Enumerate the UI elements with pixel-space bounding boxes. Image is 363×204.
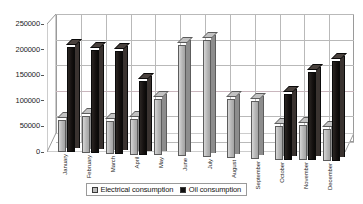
- bar-group: [106, 26, 128, 154]
- bar-group: [154, 27, 176, 155]
- x-axis-tick-label: January: [62, 154, 68, 175]
- x-axis-tick-label: July: [207, 159, 213, 169]
- bar-side-face: [316, 67, 321, 156]
- bar-oil: [139, 81, 147, 154]
- bar-front-face: [227, 99, 235, 158]
- bar-front-face: [332, 61, 340, 161]
- legend-swatch-oil-icon: [180, 187, 186, 193]
- bar-oil: [332, 61, 340, 161]
- x-axis-tick-label: November: [303, 162, 309, 189]
- bar-oil: [115, 51, 123, 153]
- bar-electrical: [58, 120, 66, 152]
- bar-oil: [67, 47, 75, 152]
- y-axis-tick-mark: [41, 126, 44, 127]
- bar-side-face: [147, 76, 152, 150]
- y-axis-tick-mark: [41, 24, 44, 25]
- bar-group: [82, 25, 104, 153]
- chart-legend: Electrical consumption Oil consumption: [86, 183, 247, 196]
- bar-front-face: [106, 121, 114, 153]
- bar-electrical: [203, 40, 211, 157]
- bar-front-face: [130, 119, 138, 155]
- bar-group: [58, 24, 80, 152]
- legend-item-oil: Oil consumption: [180, 185, 241, 194]
- bar-oil: [91, 50, 99, 152]
- bar-front-face: [58, 120, 66, 152]
- bar-front-face: [115, 51, 123, 153]
- bar-front-face: [154, 99, 162, 155]
- bar-group: [178, 28, 200, 156]
- bar-side-face: [340, 56, 345, 157]
- legend-label-oil: Oil consumption: [189, 185, 241, 194]
- bar-front-face: [178, 45, 186, 157]
- bars-layer: [47, 14, 354, 152]
- x-axis-tick-label: April: [134, 157, 140, 169]
- bar-group: [203, 29, 225, 157]
- bar-side-face: [235, 94, 240, 154]
- x-axis-tick-label: October: [279, 162, 285, 183]
- y-axis-tick-label: 50000: [20, 122, 40, 130]
- bar-group: [227, 30, 249, 158]
- y-axis: 050000100000150000200000250000: [0, 0, 44, 160]
- bar-electrical: [251, 101, 259, 159]
- x-axis-tick-label: December: [327, 163, 333, 190]
- bar-side-face: [292, 89, 297, 156]
- y-axis-tick-label: 100000: [16, 97, 40, 105]
- y-axis-tick-label: 0: [36, 148, 40, 156]
- bar-side-face: [123, 46, 128, 149]
- bar-front-face: [203, 40, 211, 157]
- x-axis-tick-label: February: [86, 155, 92, 178]
- bar-front-face: [91, 50, 99, 152]
- bar-front-face: [67, 47, 75, 152]
- bar-oil: [308, 72, 316, 160]
- y-axis-tick-label: 200000: [16, 46, 40, 54]
- bar-front-face: [139, 81, 147, 154]
- legend-label-electrical: Electrical consumption: [101, 185, 174, 194]
- y-axis-tick-mark: [41, 49, 44, 50]
- legend-swatch-electrical-icon: [92, 187, 98, 193]
- bar-side-face: [259, 96, 264, 155]
- bar-oil: [284, 94, 292, 160]
- bar-group: [299, 32, 321, 160]
- bar-front-face: [82, 116, 90, 153]
- bar-electrical: [227, 99, 235, 158]
- bar-group: [323, 33, 345, 161]
- x-axis: JanuaryFebruaryMarchAprilMayJuneJulyAugu…: [47, 152, 354, 182]
- bar-chart: 050000100000150000200000250000 JanuaryFe…: [0, 0, 363, 204]
- y-axis-tick-mark: [41, 75, 44, 76]
- x-axis-tick-label: August: [231, 160, 237, 178]
- y-axis-tick-label: 150000: [16, 71, 40, 79]
- x-axis-tick-label: May: [158, 157, 164, 168]
- bar-front-face: [284, 94, 292, 160]
- bar-electrical: [154, 99, 162, 155]
- bar-side-face: [186, 40, 191, 153]
- bar-electrical: [178, 45, 186, 157]
- bar-electrical: [130, 119, 138, 155]
- y-axis-tick-mark: [41, 152, 44, 153]
- bar-side-face: [162, 94, 167, 151]
- x-axis-tick-label: September: [255, 161, 261, 189]
- bar-side-face: [99, 45, 104, 148]
- bar-electrical: [82, 116, 90, 153]
- bar-group: [275, 32, 297, 160]
- bar-electrical: [106, 121, 114, 153]
- x-axis-tick-label: March: [110, 156, 116, 172]
- legend-item-electrical: Electrical consumption: [92, 185, 173, 194]
- bar-front-face: [251, 101, 259, 159]
- bar-front-face: [308, 72, 316, 160]
- bar-group: [251, 31, 273, 159]
- bar-group: [130, 27, 152, 155]
- x-axis-tick-label: June: [182, 158, 188, 171]
- bar-side-face: [75, 42, 80, 148]
- y-axis-tick-mark: [41, 100, 44, 101]
- bar-side-face: [211, 35, 216, 153]
- y-axis-tick-label: 250000: [16, 20, 40, 28]
